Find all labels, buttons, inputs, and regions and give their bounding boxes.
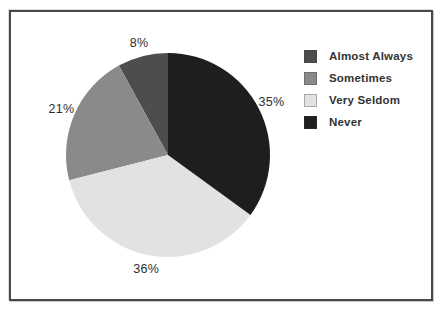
legend-item-never: Never (304, 115, 413, 129)
legend-label-sometimes: Sometimes (329, 72, 392, 84)
legend: Almost Always Sometimes Very Seldom Neve… (304, 49, 413, 137)
legend-swatch-almost-always (304, 50, 317, 63)
legend-label-almost-always: Almost Always (329, 50, 413, 62)
slice-value-label-almost-always: 8% (130, 36, 149, 50)
legend-item-sometimes: Sometimes (304, 71, 413, 85)
slice-value-label-never: 35% (258, 95, 284, 109)
legend-label-never: Never (329, 116, 362, 128)
slice-value-label-very-seldom: 36% (133, 262, 159, 276)
legend-swatch-sometimes (304, 72, 317, 85)
legend-swatch-never (304, 116, 317, 129)
slice-value-label-sometimes: 21% (49, 102, 75, 116)
legend-swatch-very-seldom (304, 94, 317, 107)
legend-item-very-seldom: Very Seldom (304, 93, 413, 107)
legend-label-very-seldom: Very Seldom (329, 94, 400, 106)
legend-item-almost-always: Almost Always (304, 49, 413, 63)
pie-chart (0, 0, 442, 310)
screen: 8% 21% 36% 35% Almost Always Sometimes V… (0, 0, 442, 310)
